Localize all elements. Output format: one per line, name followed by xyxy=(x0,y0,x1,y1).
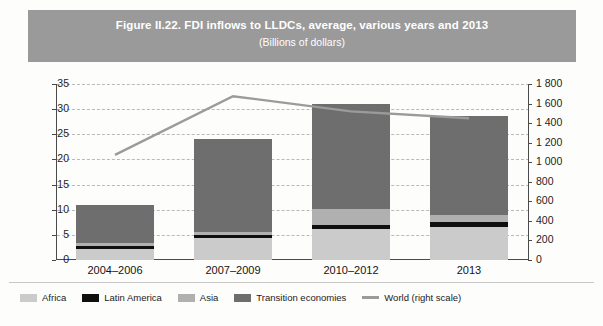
bar-stack xyxy=(430,0,508,260)
legend-swatch xyxy=(82,294,99,302)
bar-segment xyxy=(312,229,390,260)
category-label: 2007–2009 xyxy=(173,264,293,276)
right-axis-tick-label: 200 xyxy=(536,233,582,245)
bar-segment xyxy=(312,104,390,209)
legend-item[interactable]: Transition economies xyxy=(234,292,346,303)
bar-stack-inner xyxy=(430,116,508,260)
bar-stack xyxy=(76,0,154,260)
left-axis-tickmark xyxy=(52,84,56,85)
right-axis-tickmark xyxy=(528,143,532,144)
legend-item[interactable]: Latin America xyxy=(82,292,162,303)
right-axis-tickmark xyxy=(528,201,532,202)
bar-segment xyxy=(194,238,272,260)
bar-segment xyxy=(430,227,508,260)
left-axis-tick-label: 15 xyxy=(29,178,69,190)
right-axis-tickmark xyxy=(528,182,532,183)
right-axis-tickmark xyxy=(528,123,532,124)
category-label: 2010–2012 xyxy=(291,264,411,276)
right-axis-line xyxy=(528,84,529,260)
left-axis-tickmark xyxy=(52,185,56,186)
right-axis-tick-label: 1 400 xyxy=(536,116,582,128)
legend-swatch xyxy=(234,294,251,302)
category-label: 2013 xyxy=(409,264,529,276)
legend-swatch xyxy=(362,296,379,299)
legend-label: Asia xyxy=(200,292,218,303)
legend-item[interactable]: Asia xyxy=(178,292,218,303)
legend-divider xyxy=(9,282,594,283)
right-axis-tick-label: 800 xyxy=(536,175,582,187)
left-axis-tick-label: 30 xyxy=(29,102,69,114)
bar-stack xyxy=(312,0,390,260)
bar-segment xyxy=(76,205,154,243)
right-axis-tickmark xyxy=(528,162,532,163)
figure-container: Figure II.22. FDI inflows to LLDCs, aver… xyxy=(0,0,603,326)
right-axis-tick-label: 1 000 xyxy=(536,155,582,167)
right-axis-tickmark xyxy=(528,84,532,85)
right-axis-tick-label: 0 xyxy=(536,253,582,265)
right-axis-tick-label: 400 xyxy=(536,214,582,226)
left-axis-tick-label: 10 xyxy=(29,203,69,215)
chart-legend: AfricaLatin AmericaAsiaTransition econom… xyxy=(20,292,590,303)
bar-segment xyxy=(194,139,272,232)
legend-label: Africa xyxy=(42,292,66,303)
right-axis-tick-label: 600 xyxy=(536,194,582,206)
legend-label: World (right scale) xyxy=(384,292,461,303)
left-axis-tickmark xyxy=(52,159,56,160)
left-axis-tickmark xyxy=(52,109,56,110)
left-axis-tick-label: 25 xyxy=(29,127,69,139)
bar-stack xyxy=(194,0,272,260)
left-axis-tick-label: 20 xyxy=(29,152,69,164)
legend-item[interactable]: Africa xyxy=(20,292,66,303)
bar-segment xyxy=(312,209,390,225)
legend-swatch xyxy=(20,294,37,302)
left-axis-tickmark xyxy=(52,235,56,236)
bar-segment xyxy=(76,249,154,260)
left-axis-tick-label: 35 xyxy=(29,77,69,89)
category-label: 2004–2006 xyxy=(55,264,175,276)
legend-item[interactable]: World (right scale) xyxy=(362,292,461,303)
right-axis-tickmark xyxy=(528,104,532,105)
right-axis-tickmark xyxy=(528,240,532,241)
left-axis-tickmark xyxy=(52,210,56,211)
right-axis-tick-label: 1 200 xyxy=(536,136,582,148)
bar-stack-inner xyxy=(76,205,154,260)
legend-label: Latin America xyxy=(104,292,162,303)
right-axis-tickmark xyxy=(528,260,532,261)
left-axis-tick-label: 5 xyxy=(29,228,69,240)
bar-stack-inner xyxy=(312,104,390,260)
right-axis-tickmark xyxy=(528,221,532,222)
legend-label: Transition economies xyxy=(256,292,346,303)
legend-swatch xyxy=(178,294,195,302)
left-axis-tickmark xyxy=(52,134,56,135)
bar-segment xyxy=(430,116,508,215)
right-axis-tick-label: 1 800 xyxy=(536,77,582,89)
right-axis-tick-label: 1 600 xyxy=(536,97,582,109)
bar-stack-inner xyxy=(194,139,272,260)
left-axis-tickmark xyxy=(52,260,56,261)
